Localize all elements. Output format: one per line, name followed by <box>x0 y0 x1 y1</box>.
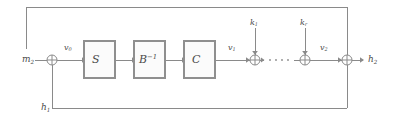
arrow-kr-into-xor <box>302 51 308 55</box>
block-diagram: S B−1 C m2 h1 v0 v1 v2 k1 kr h2 <box>0 0 393 120</box>
ellipsis-dots <box>269 59 289 61</box>
ellipsis-dot <box>275 59 277 61</box>
xor-gate-kr[interactable] <box>300 55 310 65</box>
ellipsis-dot <box>281 59 283 61</box>
label-k1: k1 <box>250 19 258 27</box>
arrow-after-xor-k1 <box>261 58 265 63</box>
label-input-message: m2 <box>22 55 34 64</box>
key-injection-wires <box>252 28 308 55</box>
arrow-into-xor-k1 <box>246 57 250 63</box>
label-v0: v0 <box>64 44 72 52</box>
xor-gate-k1[interactable] <box>250 55 260 65</box>
block-label-c: C <box>192 54 200 65</box>
xor-gate-input[interactable] <box>47 55 57 65</box>
label-output-hash: h2 <box>368 55 377 64</box>
arrow-k1-into-xor <box>252 51 258 55</box>
xor-gate-output[interactable] <box>342 55 352 65</box>
label-v2: v2 <box>320 44 328 52</box>
ellipsis-dot <box>269 59 271 61</box>
arrow-to-h2 <box>360 57 364 63</box>
block-label-b-inverse: B−1 <box>139 54 157 65</box>
label-kr: kr <box>300 19 307 27</box>
label-v1: v1 <box>228 44 236 52</box>
block-label-s: S <box>92 54 100 65</box>
ellipsis-dot <box>287 59 289 61</box>
label-chaining-input: h1 <box>41 103 50 112</box>
arrow-into-xor-output <box>338 57 342 63</box>
